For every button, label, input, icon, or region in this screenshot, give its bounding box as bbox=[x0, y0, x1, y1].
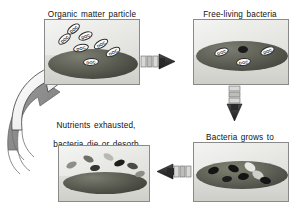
bacterium-desorbing bbox=[113, 158, 125, 167]
bacterium-desorbing bbox=[126, 162, 138, 171]
diagram-canvas: Organic matter particle adsorbs DOC Free… bbox=[0, 0, 298, 211]
bacterium-desorbing bbox=[65, 160, 78, 170]
bacterium-desorbing bbox=[102, 152, 115, 163]
arrow-recycle-tail bbox=[8, 130, 34, 174]
arrow-panel1-to-panel2 bbox=[141, 54, 175, 69]
caption-panel-4-line1: Nutrients exhausted, bbox=[56, 121, 135, 130]
panel-bacteria-desorb bbox=[58, 145, 150, 202]
bacterium-attached bbox=[238, 46, 248, 53]
bacterium-desorbing bbox=[82, 154, 95, 164]
panel-bacteria-colony bbox=[193, 142, 289, 202]
arrow-panel2-to-panel3 bbox=[227, 86, 242, 121]
bacterium-desorbing bbox=[90, 164, 101, 172]
arrow-panel3-to-panel4 bbox=[157, 164, 191, 179]
panel-organic-matter-adsorbs-doc: DOC DOC DOC DOC DOC DOC DOC bbox=[44, 19, 140, 85]
doc-particle: DOC bbox=[77, 29, 94, 42]
panel-bacteria-attaches: DOC DOC DOC bbox=[193, 19, 289, 85]
doc-particle: DOC bbox=[56, 31, 73, 47]
